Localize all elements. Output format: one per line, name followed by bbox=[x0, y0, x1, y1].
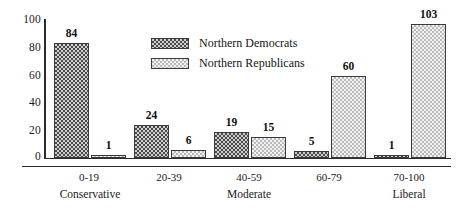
bar-value-republicans-0-19: 1 bbox=[91, 140, 126, 152]
legend-label-democrats: Northern Democrats bbox=[199, 37, 297, 50]
bar-republicans-60-79 bbox=[331, 76, 366, 159]
x-tick-70-100: 70-100 bbox=[373, 172, 445, 183]
y-tick-80: 80 bbox=[1, 42, 41, 54]
y-tick-0: 0 bbox=[1, 151, 41, 163]
bar-democrats-70-100 bbox=[374, 155, 409, 158]
legend-swatch-republicans-icon bbox=[151, 58, 189, 69]
y-tick-100: 100 bbox=[1, 14, 41, 26]
bar-democrats-0-19 bbox=[54, 43, 89, 159]
bar-chart: 100 80 60 40 20 0 84 1 24 6 19 15 bbox=[0, 0, 459, 208]
x-tick-20-39: 20-39 bbox=[133, 172, 205, 183]
bar-republicans-70-100 bbox=[411, 24, 446, 158]
bottom-rule bbox=[22, 166, 451, 167]
bar-republicans-0-19 bbox=[91, 155, 126, 158]
bar-group-60-79: 5 60 bbox=[293, 19, 365, 158]
x-tick-60-79: 60-79 bbox=[293, 172, 365, 183]
bar-value-democrats-20-39: 24 bbox=[134, 110, 169, 122]
x-tick-0-19: 0-19 bbox=[53, 172, 125, 183]
x-tick-40-59: 40-59 bbox=[213, 172, 285, 183]
bar-value-republicans-60-79: 60 bbox=[331, 61, 366, 73]
bar-group-70-100: 1 103 bbox=[373, 19, 445, 158]
y-tick-20: 20 bbox=[1, 125, 41, 137]
bar-value-republicans-40-59: 15 bbox=[251, 122, 286, 134]
bar-group-0-19: 84 1 bbox=[53, 19, 125, 158]
bar-democrats-40-59 bbox=[214, 132, 249, 158]
x-group-label-liberal: Liberal bbox=[373, 189, 445, 201]
legend-label-republicans: Northern Republicans bbox=[199, 57, 305, 70]
bar-value-republicans-20-39: 6 bbox=[171, 135, 206, 147]
x-group-label-moderate: Moderate bbox=[209, 189, 289, 201]
bar-value-democrats-60-79: 5 bbox=[294, 136, 329, 148]
y-tick-40: 40 bbox=[1, 97, 41, 109]
y-tick-60: 60 bbox=[1, 70, 41, 82]
bar-value-democrats-40-59: 19 bbox=[214, 117, 249, 129]
bar-value-democrats-70-100: 1 bbox=[374, 140, 409, 152]
x-group-label-conservative: Conservative bbox=[45, 189, 135, 201]
bar-value-democrats-0-19: 84 bbox=[54, 28, 89, 40]
bar-democrats-20-39 bbox=[134, 125, 169, 158]
bar-democrats-60-79 bbox=[294, 151, 329, 158]
y-axis-tick-labels: 100 80 60 40 20 0 bbox=[0, 0, 41, 208]
bar-value-republicans-70-100: 103 bbox=[411, 9, 446, 21]
legend-swatch-democrats-icon bbox=[151, 38, 189, 49]
bar-republicans-20-39 bbox=[171, 150, 206, 159]
bar-republicans-40-59 bbox=[251, 137, 286, 158]
